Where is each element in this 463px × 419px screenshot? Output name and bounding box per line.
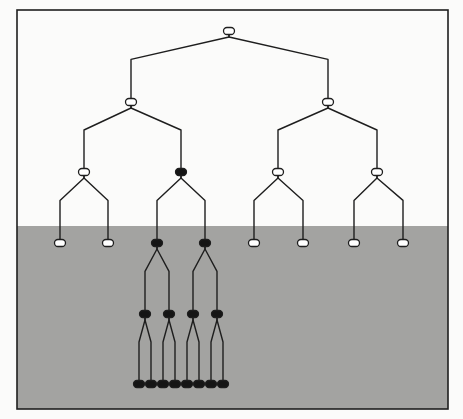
open-tree-node [323, 99, 334, 106]
filled-tree-node [218, 381, 229, 388]
open-tree-node [224, 28, 235, 35]
filled-tree-node [170, 381, 181, 388]
tree-edge [131, 34, 229, 99]
filled-tree-node [176, 169, 187, 176]
tree-edge [84, 105, 131, 169]
tree-diagram [0, 0, 463, 419]
open-tree-node [126, 99, 137, 106]
filled-tree-node [200, 240, 211, 247]
filled-tree-node [212, 311, 223, 318]
filled-tree-node [164, 311, 175, 318]
open-tree-node [298, 240, 309, 247]
open-tree-node [103, 240, 114, 247]
filled-tree-node [152, 240, 163, 247]
tree-edge [278, 105, 328, 169]
open-tree-node [273, 169, 284, 176]
tree-edge [328, 105, 377, 169]
shaded-region [17, 226, 448, 409]
open-tree-node [249, 240, 260, 247]
filled-tree-node [140, 311, 151, 318]
filled-tree-node [194, 381, 205, 388]
open-tree-node [55, 240, 66, 247]
tree-edge [229, 34, 328, 99]
open-tree-node [79, 169, 90, 176]
open-tree-node [398, 240, 409, 247]
filled-tree-node [134, 381, 145, 388]
open-tree-node [372, 169, 383, 176]
open-tree-node [349, 240, 360, 247]
tree-edge [131, 105, 181, 169]
filled-tree-node [146, 381, 157, 388]
filled-tree-node [206, 381, 217, 388]
filled-tree-node [158, 381, 169, 388]
filled-tree-node [188, 311, 199, 318]
filled-tree-node [182, 381, 193, 388]
